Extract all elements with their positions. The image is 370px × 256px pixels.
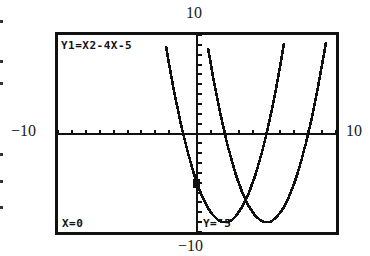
- y-axis-tick: [198, 44, 202, 46]
- x-axis-tick: [99, 130, 101, 134]
- x-axis-tick: [321, 130, 323, 134]
- graph-plot: [58, 35, 336, 232]
- cropped-text-fragment: [0, 180, 3, 183]
- x-axis-tick: [140, 130, 142, 134]
- xmax-label: 10: [346, 123, 362, 139]
- cropped-text-fragment: [0, 60, 3, 63]
- y-axis-tick: [198, 162, 202, 164]
- y-axis-tick: [198, 123, 202, 125]
- x-axis-tick: [154, 130, 156, 134]
- ymax-label: 10: [186, 5, 202, 21]
- cropped-text-fragment: [0, 82, 3, 85]
- x-axis-tick: [71, 130, 73, 134]
- trace-y-readout: Y=¯5: [203, 218, 232, 229]
- y-axis-tick: [198, 172, 202, 174]
- cropped-text-fragment: [0, 206, 3, 209]
- x-axis-tick: [238, 130, 240, 134]
- y-axis-tick: [198, 54, 202, 56]
- trace-x-readout: X=0: [62, 218, 83, 229]
- y-axis-tick: [198, 231, 202, 232]
- x-axis-tick: [252, 130, 254, 134]
- x-axis-tick: [210, 130, 212, 134]
- x-axis-tick: [58, 130, 59, 134]
- y-axis-tick: [198, 113, 202, 115]
- calculator-graph-screen: Y1=X2-4X-5 X=0 Y=¯5: [55, 32, 339, 235]
- y-axis-tick: [198, 211, 202, 213]
- x-axis-tick: [279, 130, 281, 134]
- y-axis-tick: [198, 35, 202, 36]
- x-axis-tick: [127, 130, 129, 134]
- x-axis-tick: [85, 130, 87, 134]
- y-axis-tick: [198, 93, 202, 95]
- y-axis-tick: [198, 221, 202, 223]
- equation-label: Y1=X2-4X-5: [61, 40, 133, 51]
- x-axis-tick: [293, 130, 295, 134]
- trace-cursor-icon: [193, 179, 200, 188]
- y-axis: [196, 35, 198, 232]
- y-axis-tick: [198, 142, 202, 144]
- cropped-text-fragment: [0, 153, 3, 156]
- cropped-text-fragment: [0, 20, 3, 23]
- ymin-label: −10: [178, 238, 203, 254]
- y-axis-tick: [198, 83, 202, 85]
- y-axis-tick: [198, 73, 202, 75]
- x-axis-tick: [335, 130, 336, 134]
- y-axis-tick: [198, 103, 202, 105]
- y-axis-tick: [198, 152, 202, 154]
- y-axis-tick: [198, 64, 202, 66]
- x-axis-tick: [113, 130, 115, 134]
- xmin-label: −10: [11, 123, 36, 139]
- x-axis-tick: [168, 130, 170, 134]
- y-axis-tick: [198, 201, 202, 203]
